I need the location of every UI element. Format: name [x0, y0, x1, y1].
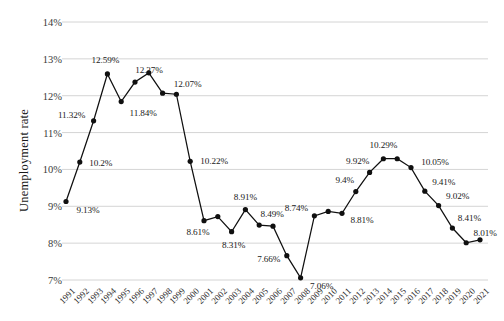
x-axis-tick-labels: 1991199219931994199519961997199819992000…: [0, 0, 504, 321]
unemployment-rate-line-chart: Unemployment rate 14%13%12%11%10%9%8%7% …: [0, 0, 504, 321]
